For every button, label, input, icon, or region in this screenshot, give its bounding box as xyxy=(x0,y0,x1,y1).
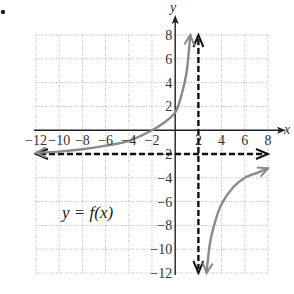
x-tick-label: −8 xyxy=(75,133,90,148)
x-tick-label: −12 xyxy=(25,133,47,148)
x-tick-label: 2 xyxy=(195,133,202,148)
y-tick-label: −6 xyxy=(157,195,172,210)
x-tick-label: 4 xyxy=(218,133,225,148)
x-tick-label: −6 xyxy=(98,133,113,148)
y-tick-label: 2 xyxy=(165,99,172,114)
x-tick-label: −2 xyxy=(145,133,160,148)
y-tick-label: 6 xyxy=(165,52,172,67)
y-axis-label: y xyxy=(168,0,177,15)
y-tick-label: −2 xyxy=(157,147,172,162)
y-tick-label: −12 xyxy=(150,266,172,281)
x-tick-label: −4 xyxy=(121,133,136,148)
y-tick-label: 4 xyxy=(165,76,172,91)
bullet-dot xyxy=(1,10,5,14)
x-tick-label: 8 xyxy=(265,133,272,148)
y-tick-label: 8 xyxy=(165,28,172,43)
y-tick-label: −10 xyxy=(150,242,172,257)
curve-right-branch xyxy=(207,168,268,273)
x-axis-label: x xyxy=(283,122,291,137)
equation-label: y = f(x) xyxy=(60,203,113,222)
x-tick-label: −10 xyxy=(48,133,70,148)
x-tick-label: 6 xyxy=(241,133,248,148)
y-tick-label: −8 xyxy=(157,218,172,233)
y-tick-label: −4 xyxy=(157,171,172,186)
function-graph: −12−10−8−6−4−224688642−2−4−6−8−10−12 x y… xyxy=(0,0,294,294)
